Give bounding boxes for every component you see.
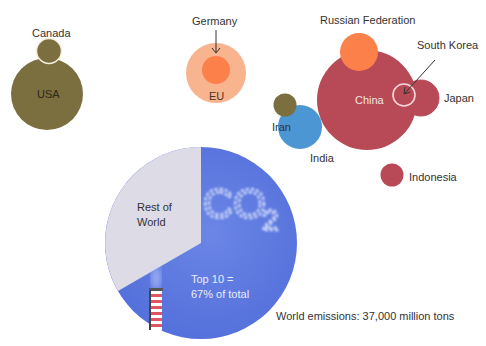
label-japan: Japan (444, 93, 474, 104)
germany-arrow (212, 30, 220, 53)
label-rest-of-world: Rest of World (137, 200, 197, 230)
label-china: China (355, 95, 384, 106)
svg-text:CO: CO (203, 180, 266, 227)
label-germany: Germany (192, 16, 237, 27)
label-top10-line1: Top 10 = (191, 272, 281, 287)
bubble-canada (37, 39, 62, 64)
label-rest-of-world-line1: Rest of (137, 200, 197, 215)
emissions-chart: CO 2 Canada USA Germany EU Russian Feder… (0, 0, 486, 346)
label-russian-federation: Russian Federation (320, 15, 415, 26)
label-south-korea: South Korea (417, 40, 478, 51)
label-canada: Canada (32, 28, 71, 39)
svg-text:2: 2 (262, 203, 279, 236)
bubble-germany (202, 56, 230, 84)
pie-chart: CO 2 (105, 147, 297, 339)
bubble-russia (340, 33, 378, 71)
label-indonesia: Indonesia (409, 172, 457, 183)
label-top10-line2: 67% of total (191, 287, 281, 302)
bubble-iran (274, 94, 297, 117)
footnote-world-emissions: World emissions: 37,000 million tons (276, 311, 454, 322)
label-top10-share: Top 10 = 67% of total (191, 272, 281, 302)
label-india: India (310, 153, 334, 164)
label-rest-of-world-line2: World (137, 215, 197, 230)
label-eu: EU (209, 91, 224, 102)
bubble-indonesia (381, 164, 404, 187)
label-iran: Iran (272, 122, 291, 133)
label-usa: USA (37, 89, 60, 100)
